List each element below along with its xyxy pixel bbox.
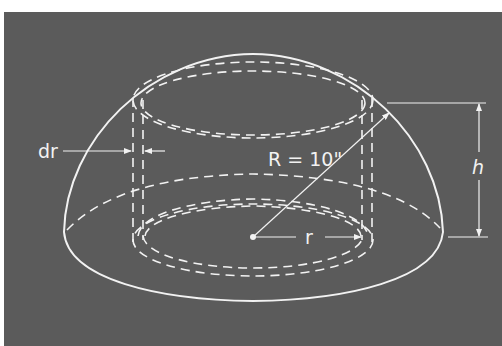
R-label: R = 10" [268, 148, 342, 170]
hemisphere-diagram: dr R = 10" r h [0, 0, 502, 346]
r-label: r [305, 226, 313, 248]
hemisphere-outline [64, 54, 443, 301]
hemisphere-equator-back [67, 174, 440, 230]
dr-label: dr [38, 140, 58, 162]
h-label: h [472, 156, 484, 178]
center-point [250, 234, 256, 240]
